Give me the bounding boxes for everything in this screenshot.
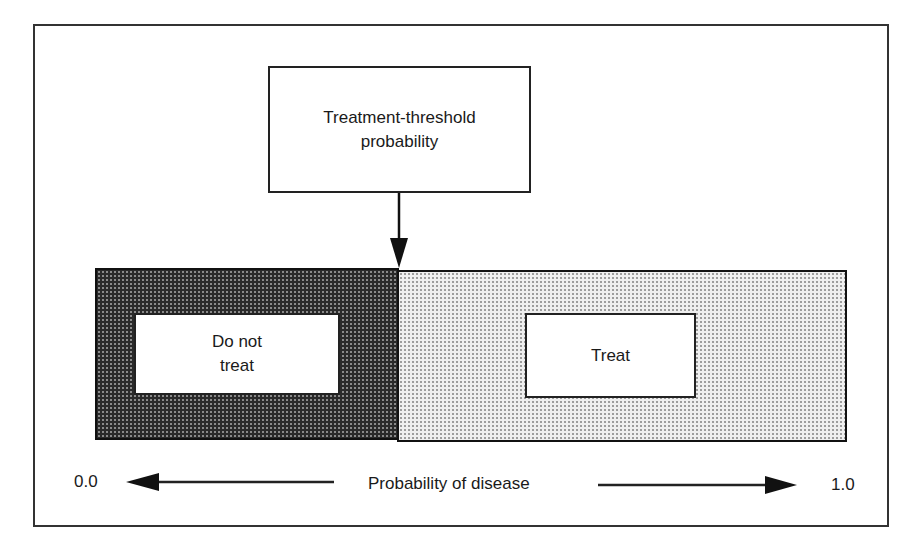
arrows-layer xyxy=(0,0,924,556)
threshold-arrow-icon xyxy=(390,193,408,268)
right-arrow-icon xyxy=(598,476,797,494)
axis-max-label: 1.0 xyxy=(831,475,855,495)
axis-min-label: 0.0 xyxy=(74,472,98,492)
axis-title: Probability of disease xyxy=(368,474,530,494)
left-arrow-icon xyxy=(126,473,334,491)
